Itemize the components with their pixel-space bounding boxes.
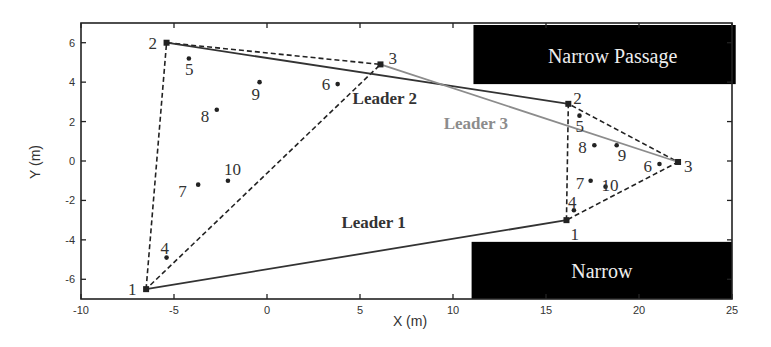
leader-id-label: 2: [573, 89, 582, 108]
obstacles-layer: Narrow PassageNarrow: [472, 25, 736, 299]
follower-id-label: 5: [185, 60, 194, 79]
leader-marker: [563, 217, 569, 223]
leader-marker: [675, 159, 681, 165]
leader-labels: Leader 1Leader 2Leader 3: [341, 89, 508, 232]
obstacle-label: Narrow: [571, 260, 633, 282]
follower-marker: [196, 182, 201, 187]
follower-marker: [257, 80, 262, 85]
follower-id-label: 4: [568, 193, 577, 212]
follower-id-label: 8: [578, 138, 587, 157]
y-tick-label: 2: [69, 116, 75, 128]
x-tick-label: -5: [169, 304, 179, 316]
follower-id-label: 9: [252, 85, 261, 104]
follower-id-label: 8: [201, 107, 210, 126]
x-tick-label: 10: [447, 304, 459, 316]
follower-id-label: 9: [618, 146, 627, 165]
x-tick-label: 0: [264, 304, 270, 316]
obstacle-label: Narrow Passage: [548, 45, 678, 68]
leader-label: Leader 1: [341, 213, 405, 232]
x-tick-label: 25: [726, 304, 738, 316]
leader-label: Leader 3: [444, 114, 508, 133]
leader-id-label: 2: [149, 34, 158, 53]
leader-id-label: 3: [388, 49, 397, 68]
x-tick-label: 15: [540, 304, 552, 316]
follower-marker: [226, 178, 231, 183]
follower-id-label: 6: [322, 75, 331, 94]
y-tick-label: -4: [65, 234, 75, 246]
y-axis-label: Y (m): [27, 145, 43, 179]
leader-id-label: 3: [684, 157, 693, 176]
follower-marker: [214, 107, 219, 112]
follower-id-label: 5: [575, 117, 584, 136]
formation-plot: Narrow PassageNarrow -10-50510152025-6-4…: [0, 0, 771, 347]
y-tick-label: 4: [69, 76, 75, 88]
leader-id-label: 1: [128, 280, 137, 299]
x-tick-label: -10: [73, 304, 89, 316]
x-axis-label: X (m): [393, 313, 427, 329]
leader-label: Leader 2: [353, 89, 417, 108]
leader-marker: [164, 40, 170, 46]
follower-id-label: 6: [643, 157, 652, 176]
x-tick-label: 5: [357, 304, 363, 316]
leader-marker: [377, 61, 383, 67]
follower-id-label: 4: [161, 239, 170, 258]
follower-marker: [335, 82, 340, 87]
x-tick-label: 20: [633, 304, 645, 316]
y-tick-label: 6: [69, 37, 75, 49]
follower-id-label: 10: [602, 176, 619, 195]
leader-id-label: 1: [570, 225, 579, 244]
follower-marker: [592, 143, 597, 148]
leader-marker: [565, 101, 571, 107]
formation-triangle-initial: [146, 43, 380, 289]
follower-id-label: 7: [576, 174, 585, 193]
follower-marker: [657, 162, 662, 167]
y-tick-label: -2: [65, 194, 75, 206]
leader-marker: [143, 286, 149, 292]
follower-marker: [588, 178, 593, 183]
follower-id-label: 10: [224, 160, 241, 179]
y-tick-label: 0: [69, 155, 75, 167]
follower-id-label: 7: [178, 182, 187, 201]
y-tick-label: -6: [65, 273, 75, 285]
